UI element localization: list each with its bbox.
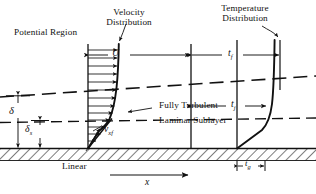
- fully-turbulent-label: Fully Turbulent: [159, 101, 218, 111]
- sublayer-thickness-label: δs: [25, 124, 32, 137]
- thermal-thickness-j-label: tj: [231, 99, 236, 112]
- potential-region-label: Potential Region: [14, 28, 77, 38]
- temperature-distribution-line2: Distribution: [207, 14, 283, 24]
- laminar-sublayer-label: Laminar Sublayer: [159, 116, 227, 126]
- thermal-thickness-j-subscript: j: [234, 104, 236, 111]
- temperature-profile-curve: [237, 40, 275, 149]
- velocity-distribution-line2: Distribution: [99, 18, 159, 28]
- thermal-thickness-f-subscript: f: [231, 53, 233, 60]
- dimension-arrow-delta-s: [31, 120, 49, 148]
- boundary-layer-edge-line: [0, 76, 316, 97]
- temperature-distribution-label: Temperature Distribution: [207, 4, 283, 24]
- dimension-arrow-tf: [192, 40, 280, 90]
- free-stream-velocity-label: U: [112, 48, 119, 58]
- x-axis-label: x: [145, 177, 149, 187]
- wall-velocity-subscript: xf: [108, 129, 113, 136]
- thermal-thickness-g-label: tg: [245, 159, 251, 171]
- fully-turbulent-leader: [128, 108, 152, 112]
- thermal-thickness-f-label: tf: [228, 48, 233, 61]
- dimension-arrow-delta: [6, 95, 30, 148]
- thermal-thickness-g-subscript: g: [248, 163, 251, 170]
- linear-label: Linear: [62, 162, 87, 172]
- dimension-arrow-tg: [237, 161, 265, 172]
- velocity-distribution-label: Velocity Distribution: [99, 8, 159, 28]
- boundary-layer-figure: Potential Region Velocity Distribution T…: [0, 0, 316, 194]
- temperature-distribution-leader: [262, 26, 278, 37]
- wall-surface: [0, 149, 316, 161]
- sublayer-thickness-subscript: s: [30, 129, 33, 136]
- wall-velocity-label: vxf: [104, 124, 113, 137]
- boundary-layer-thickness-label: δ: [9, 105, 14, 116]
